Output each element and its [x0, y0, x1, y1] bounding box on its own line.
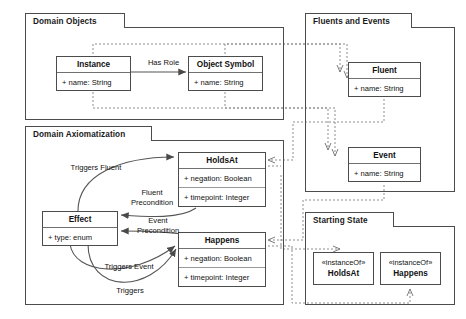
class-effect-attr-0: + type: enum: [43, 228, 117, 247]
class-event[interactable]: Event + name: String: [348, 147, 421, 182]
class-holdsat[interactable]: HoldsAt + negation: Boolean + timepoint:…: [178, 152, 266, 207]
edge-label-fluent-precondition: Fluent Precondition: [120, 188, 184, 207]
class-instance[interactable]: Instance + name: String: [56, 56, 131, 91]
class-object-symbol-name: Object Symbol: [189, 57, 262, 73]
class-holdsat-attr-1: + timepoint: Integer: [179, 188, 265, 207]
class-holdsat-attr-0: + negation: Boolean: [179, 169, 265, 188]
class-effect[interactable]: Effect + type: enum: [42, 211, 118, 246]
class-event-attr-0: + name: String: [349, 164, 420, 183]
class-fluent-attr-0: + name: String: [349, 79, 420, 98]
object-instanceof-happens-stereotype: «instanceOf»: [389, 257, 433, 268]
edge-label-event-precondition: Event Precondition: [126, 216, 190, 235]
class-effect-name: Effect: [43, 212, 117, 228]
class-holdsat-name: HoldsAt: [179, 153, 265, 169]
class-happens[interactable]: Happens + negation: Boolean + timepoint:…: [178, 232, 266, 287]
class-fluent[interactable]: Fluent + name: String: [348, 62, 421, 97]
class-fluent-name: Fluent: [349, 63, 420, 79]
object-instanceof-holdsat-stereotype: «instanceOf»: [322, 257, 366, 268]
edge-label-has-role: Has Role: [136, 58, 191, 68]
class-instance-name: Instance: [57, 57, 130, 73]
class-event-name: Event: [349, 148, 420, 164]
class-happens-attr-0: + negation: Boolean: [179, 249, 265, 268]
object-instanceof-happens-name: Happens: [393, 268, 428, 280]
class-happens-name: Happens: [179, 233, 265, 249]
class-happens-attr-1: + timepoint: Integer: [179, 268, 265, 287]
edge-label-triggers: Triggers: [106, 286, 154, 296]
object-instanceof-holdsat[interactable]: «instanceOf» HoldsAt: [313, 252, 374, 285]
edge-label-triggers-event: Triggers Event: [93, 262, 165, 272]
edge-label-triggers-fluent: Triggers Fluent: [60, 163, 132, 173]
object-instanceof-holdsat-name: HoldsAt: [328, 268, 359, 280]
diagram-canvas: Domain Objects Fluents and Events Domain…: [0, 0, 466, 319]
class-object-symbol-attr-0: + name: String: [189, 73, 262, 92]
class-instance-attr-0: + name: String: [57, 73, 130, 92]
object-instanceof-happens[interactable]: «instanceOf» Happens: [380, 252, 441, 285]
class-object-symbol[interactable]: Object Symbol + name: String: [188, 56, 263, 91]
